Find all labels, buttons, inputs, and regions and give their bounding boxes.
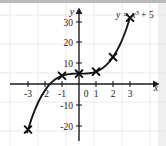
y-tick-label: 30 xyxy=(64,18,74,28)
equation-plus: + xyxy=(141,10,146,20)
y-tick-label: -10 xyxy=(60,101,73,111)
equation-label: y=x3+5 xyxy=(115,9,154,21)
y-axis-label: y xyxy=(69,6,75,17)
y-axis-arrowhead xyxy=(76,8,83,15)
y-tick-label: -20 xyxy=(60,122,73,132)
x-tick-label: 3 xyxy=(128,89,133,99)
x-tick-label: 2 xyxy=(111,89,116,99)
y-tick-label: 20 xyxy=(64,38,74,48)
coordinate-plane-svg: -3 -2 -1 0 1 2 3 30 20 10 -10 -20 x y xyxy=(0,3,166,146)
x-tick-label: -1 xyxy=(58,89,66,99)
x-tick-label: 1 xyxy=(94,89,99,99)
figure-container: -3 -2 -1 0 1 2 3 30 20 10 -10 -20 x y xyxy=(0,0,166,146)
graph-plot-area: -3 -2 -1 0 1 2 3 30 20 10 -10 -20 x y xyxy=(0,3,166,146)
equation-lhs: y xyxy=(115,10,121,20)
x-tick-label: -3 xyxy=(24,89,32,99)
y-tick-label: 10 xyxy=(64,59,74,69)
x-axis-label: x xyxy=(153,82,159,93)
data-point-marker xyxy=(110,54,117,61)
equation-equals: = xyxy=(123,10,128,20)
equation-annotation: y=x3+5 xyxy=(115,9,154,21)
x-tick-label: 0 xyxy=(84,89,89,99)
equation-constant: 5 xyxy=(149,10,154,20)
x-axis xyxy=(10,81,160,88)
equation-exponent: 3 xyxy=(135,9,140,16)
